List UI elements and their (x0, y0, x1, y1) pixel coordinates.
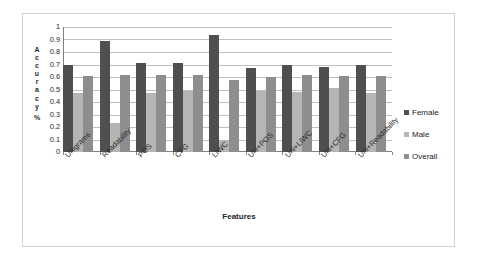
x-axis-title: Features (0, 212, 478, 221)
y-axis-tick-label: 0.6 (50, 73, 60, 81)
y-axis-tick-label: 0.7 (50, 61, 60, 69)
legend-swatch-icon (404, 132, 409, 137)
y-axis-tick-label: 1 (56, 23, 60, 31)
legend-item: Male (404, 123, 464, 145)
y-axis-tick-label: 0.2 (50, 123, 60, 131)
y-axis-tick-label: 0.3 (50, 111, 60, 119)
y-axis-tick-label: 0.5 (50, 86, 60, 94)
bar-female (209, 35, 219, 152)
legend-item: Female (404, 101, 464, 123)
bar-overall (193, 75, 203, 152)
bar-female (136, 63, 146, 152)
y-axis-tick-label: 0.4 (50, 98, 60, 106)
y-axis-tick-label: 0.1 (50, 136, 60, 144)
bar-overall (229, 80, 239, 153)
bar-female (100, 41, 110, 152)
legend-label: Overall (412, 152, 437, 161)
bar-overall (156, 75, 166, 152)
y-axis-tick-labels: 10.90.80.70.60.50.40.30.20.10 (42, 19, 60, 159)
y-axis-tick-label: 0 (56, 148, 60, 156)
bar-female (173, 63, 183, 152)
bar-group (209, 27, 246, 152)
legend-swatch-icon (404, 110, 409, 115)
x-axis-tickmark (392, 152, 393, 155)
bar-chart: Accuracy % 10.90.80.70.60.50.40.30.20.10… (0, 0, 478, 262)
chart-legend: FemaleMaleOverall (404, 101, 464, 167)
bar-group (173, 27, 210, 152)
y-axis-tick-label: 0.9 (50, 36, 60, 44)
bar-female (282, 65, 292, 153)
legend-item: Overall (404, 145, 464, 167)
bar-female (63, 65, 73, 153)
bar-female (246, 68, 256, 152)
legend-swatch-icon (404, 154, 409, 159)
bar-group (136, 27, 173, 152)
bar-female (319, 67, 329, 152)
legend-label: Male (412, 130, 429, 139)
bar-female (356, 65, 366, 153)
y-axis-tick-label: 0.8 (50, 48, 60, 56)
legend-label: Female (412, 108, 439, 117)
